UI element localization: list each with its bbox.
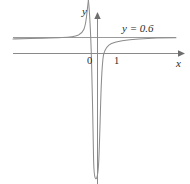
curve-left-branch xyxy=(13,0,88,39)
graph-canvas xyxy=(0,0,190,184)
x-tick-label-1: 1 xyxy=(114,56,119,67)
curve-vertical-asymptote-dip xyxy=(88,0,103,179)
y-axis-arrow-icon xyxy=(94,12,100,19)
origin-tick-label: 0 xyxy=(87,56,92,67)
y-axis-label: y xyxy=(82,6,87,17)
curve-right-branch xyxy=(104,38,176,55)
x-axis-label: x xyxy=(176,58,181,69)
asymptote-label: y = 0.6 xyxy=(122,23,154,34)
function-graph-figure: y x 0 1 y = 0.6 xyxy=(0,0,190,184)
x-axis-arrow-icon xyxy=(178,50,185,57)
